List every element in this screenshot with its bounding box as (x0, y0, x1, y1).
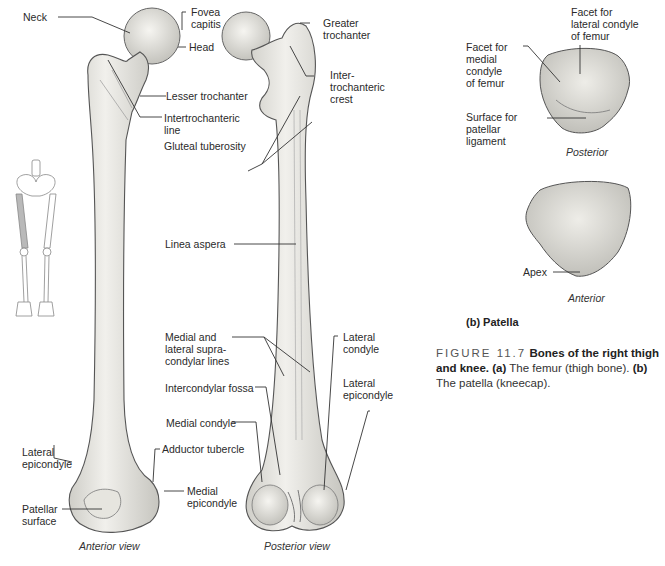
patella-subtitle: (b) Patella (466, 316, 519, 328)
label-facet-medial-condyle: Facet for medial condyle of femur (466, 41, 507, 89)
patella-anterior (526, 181, 631, 276)
part-a-text: The femur (thigh bone). (509, 362, 629, 374)
posterior-view-caption: Posterior view (264, 540, 330, 552)
label-intertrochanteric-crest: Inter- trochanteric crest (330, 69, 385, 105)
label-greater-trochanter: Greater trochanter (323, 17, 370, 41)
label-lateral-epicondyle-posterior: Lateral epicondyle (343, 377, 393, 401)
label-linea-aspera: Linea aspera (165, 238, 226, 250)
label-gluteal-tuberosity: Gluteal tuberosity (164, 140, 246, 152)
label-lateral-epicondyle-anterior: Lateral epicondyle (22, 446, 72, 470)
figure-caption: FIGURE 11.7 Bones of the right thigh and… (436, 346, 662, 391)
label-adductor-tubercle: Adductor tubercle (162, 443, 244, 455)
part-b-text: The patella (kneecap). (436, 377, 550, 389)
label-neck: Neck (23, 11, 47, 23)
patella-anterior-caption: Anterior (568, 292, 605, 304)
anterior-view-caption: Anterior view (79, 540, 140, 552)
patella-posterior (540, 48, 630, 133)
label-supracondylar-lines: Medial and lateral supra- condylar lines (165, 331, 229, 367)
part-b-marker: (b) (633, 362, 648, 374)
figure-number: FIGURE 11.7 (436, 347, 526, 359)
label-intertrochanteric-line: Intertrochanteric line (164, 112, 240, 136)
label-lesser-trochanter: Lesser trochanter (166, 90, 248, 102)
label-medial-condyle: Medial condyle (166, 417, 236, 429)
label-medial-epicondyle: Medial epicondyle (187, 485, 237, 509)
skeleton-locator-icon (16, 160, 56, 316)
label-head: Head (189, 41, 214, 53)
label-fovea-capitis: Fovea capitis (191, 6, 221, 30)
label-intercondylar-fossa: Intercondylar fossa (165, 382, 254, 394)
part-a-marker: (a) (492, 362, 506, 374)
label-apex: Apex (523, 266, 547, 278)
label-patellar-surface: Patellar surface (22, 503, 58, 527)
label-facet-lateral-condyle: Facet for lateral condyle of femur (571, 6, 639, 42)
label-lateral-condyle: Lateral condyle (343, 331, 379, 355)
label-surface-patellar-ligament: Surface for patellar ligament (466, 111, 517, 147)
patella-posterior-caption: Posterior (566, 146, 608, 158)
